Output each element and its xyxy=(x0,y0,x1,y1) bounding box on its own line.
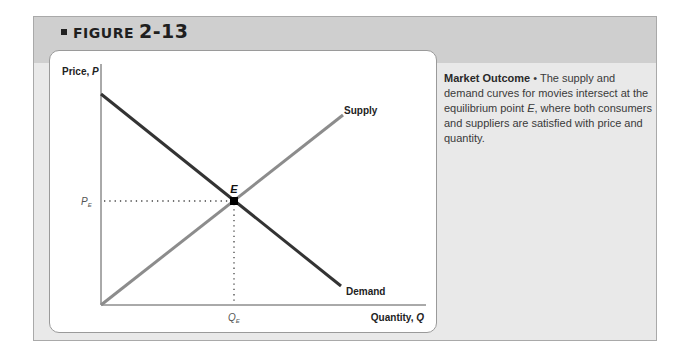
supply-curve xyxy=(101,115,343,305)
equilibrium-label: E xyxy=(230,183,238,195)
caption-heading: Market Outcome xyxy=(444,72,530,84)
caption-separator: • xyxy=(530,72,540,84)
equilibrium-point-marker xyxy=(230,197,238,205)
supply-label: Supply xyxy=(344,105,378,116)
figure-label: FIGURE xyxy=(73,25,134,41)
supply-demand-chart: Price, P Quantity, Q Supply Demand E PE … xyxy=(50,51,438,334)
figure-caption: Market Outcome • The supply and demand c… xyxy=(444,71,654,146)
figure-frame: FIGURE 2-13 Price, P Quantity, Q Supply … xyxy=(33,16,657,341)
caption-text-italic: E xyxy=(527,102,534,114)
pe-tick-label: PE xyxy=(81,196,93,208)
qe-tick-label: QE xyxy=(228,312,241,324)
x-axis-label: Quantity, Q xyxy=(371,312,424,323)
demand-label: Demand xyxy=(346,286,385,297)
square-bullet-icon xyxy=(61,29,67,35)
chart-panel: Price, P Quantity, Q Supply Demand E PE … xyxy=(49,50,437,333)
y-axis-label: Price, P xyxy=(62,66,99,77)
figure-number: 2-13 xyxy=(139,20,189,42)
demand-curve xyxy=(101,94,341,286)
figure-title: FIGURE 2-13 xyxy=(61,20,189,46)
